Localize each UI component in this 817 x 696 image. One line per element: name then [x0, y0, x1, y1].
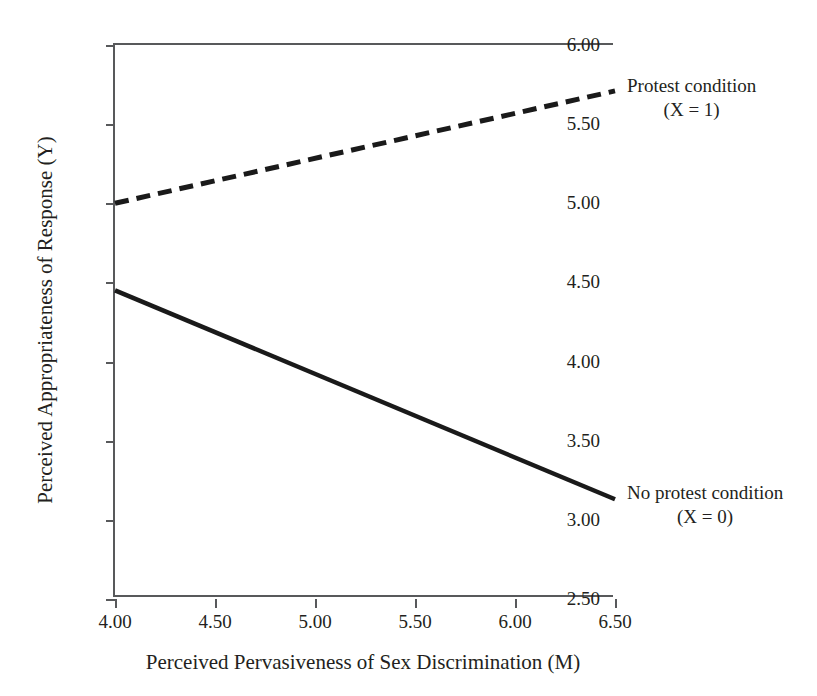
y-axis-title: Perceived Appropriateness of Response (Y… — [30, 43, 60, 597]
y-tick-mark — [106, 203, 115, 205]
x-tick-label: 5.50 — [398, 612, 431, 631]
plot-lines-svg — [115, 45, 615, 599]
x-tick-mark — [315, 599, 317, 608]
y-tick-mark — [106, 520, 115, 522]
y-tick-label: 5.00 — [567, 193, 600, 212]
x-tick-mark — [615, 599, 617, 608]
annotation-protest-condition: Protest condition (X = 1) — [627, 74, 756, 122]
x-tick-label: 5.00 — [298, 612, 331, 631]
x-axis-title: Perceived Pervasiveness of Sex Discrimin… — [113, 650, 613, 674]
y-tick-label: 6.00 — [567, 35, 600, 54]
annotation-protest-line2: (X = 1) — [627, 98, 756, 122]
annotation-protest-line1: Protest condition — [627, 74, 756, 98]
annotation-noprotest-line2: (X = 0) — [627, 505, 783, 529]
y-tick-label: 5.50 — [567, 114, 600, 133]
x-tick-label: 4.50 — [198, 612, 231, 631]
x-tick-label: 6.50 — [598, 612, 631, 631]
series-line-no-protest-condition — [115, 290, 615, 499]
y-tick-mark — [106, 45, 115, 47]
y-tick-label: 2.50 — [567, 589, 600, 608]
y-tick-mark — [106, 362, 115, 364]
x-tick-mark — [115, 599, 117, 608]
x-tick-mark — [415, 599, 417, 608]
y-tick-mark — [106, 441, 115, 443]
x-tick-label: 6.00 — [498, 612, 531, 631]
annotation-noprotest-line1: No protest condition — [627, 481, 783, 505]
y-tick-label: 3.00 — [567, 510, 600, 529]
y-tick-mark — [106, 124, 115, 126]
annotation-no-protest-condition: No protest condition (X = 0) — [627, 481, 783, 529]
y-tick-label: 3.50 — [567, 431, 600, 450]
plot-area: 6.00 5.50 5.00 4.50 4.00 3.50 3.00 2.50 … — [113, 43, 613, 597]
y-tick-label: 4.00 — [567, 352, 600, 371]
y-tick-label: 4.50 — [567, 272, 600, 291]
y-tick-mark — [106, 282, 115, 284]
figure-container: 6.00 5.50 5.00 4.50 4.00 3.50 3.00 2.50 … — [0, 0, 817, 696]
series-line-protest-condition — [115, 91, 615, 203]
x-tick-mark — [515, 599, 517, 608]
x-tick-mark — [215, 599, 217, 608]
y-tick-mark — [106, 599, 115, 601]
x-tick-label: 4.00 — [98, 612, 131, 631]
